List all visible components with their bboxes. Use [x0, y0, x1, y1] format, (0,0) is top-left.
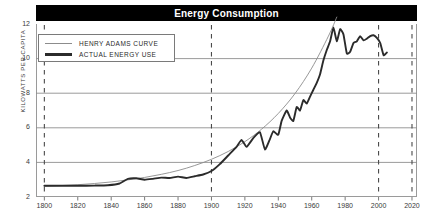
legend-label-actual-energy-use: ACTUAL ENERGY USE — [79, 51, 156, 58]
y-tick-label: 12 — [6, 20, 30, 27]
y-tick-label: 6 — [6, 123, 30, 130]
chart-legend: HENRY ADAMS CURVE ACTUAL ENERGY USE — [38, 34, 175, 62]
gridlines-group — [36, 59, 417, 163]
y-tick-label: 8 — [6, 89, 30, 96]
legend-label-henry-adams-curve: HENRY ADAMS CURVE — [79, 40, 158, 47]
legend-item-henry-adams-curve: HENRY ADAMS CURVE — [39, 38, 174, 49]
y-axis-label: KILOWATTS PER CAPITA — [20, 11, 26, 131]
legend-item-actual-energy-use: ACTUAL ENERGY USE — [39, 49, 174, 60]
energy-consumption-chart: Energy Consumption KILOWATTS PER CAPITA … — [0, 0, 429, 224]
x-tick-marks-group — [44, 197, 412, 201]
x-tick-label: 2020 — [392, 202, 429, 209]
legend-line-icon-thin — [45, 41, 72, 47]
legend-line-icon-thick — [45, 52, 72, 58]
y-tick-label: 2 — [6, 193, 30, 200]
y-tick-label: 10 — [6, 54, 30, 61]
y-tick-label: 4 — [6, 158, 30, 165]
